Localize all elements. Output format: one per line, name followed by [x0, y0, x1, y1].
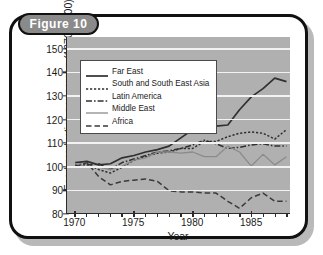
chart-stage: Food production per person (1970 = 100) …: [9, 14, 308, 239]
y-axis-tick-labels: 1501401301201101009080: [33, 37, 63, 214]
gridline: [67, 48, 290, 50]
figure-root: Figure 10 Food production per person (19…: [0, 0, 323, 255]
x-tick-mark: [275, 213, 276, 218]
x-tick-mark: [145, 213, 146, 218]
figure-badge-label: Figure 10: [30, 18, 88, 30]
gridline: [67, 190, 290, 192]
legend-item: Middle East: [86, 103, 212, 115]
legend-line-swatch: [86, 117, 108, 127]
y-tick-label: 100: [33, 161, 63, 172]
legend-item-label: Middle East: [112, 105, 155, 113]
legend-line-swatch: [86, 104, 108, 114]
legend-item: Africa: [86, 116, 212, 128]
legend-item: South and South East Asia: [86, 78, 212, 90]
legend-line-swatch: [86, 80, 108, 90]
x-tick-label: 1980: [181, 217, 203, 228]
legend-item-label: Latin America: [112, 93, 162, 101]
legend-line-swatch: [86, 67, 108, 77]
x-tick-label: 1970: [63, 217, 85, 228]
legend-item: Far East: [86, 66, 212, 78]
x-tick-mark: [98, 213, 99, 218]
x-tick-mark: [204, 213, 205, 218]
legend-item-label: Africa: [112, 118, 133, 126]
x-tick-mark: [86, 213, 87, 218]
legend-item-label: South and South East Asia: [112, 80, 209, 88]
y-tick-label: 80: [33, 209, 63, 220]
x-tick-mark: [110, 213, 111, 218]
x-tick-mark: [157, 213, 158, 218]
x-tick-mark: [169, 213, 170, 218]
x-tick-mark: [263, 213, 264, 218]
y-tick-label: 110: [33, 138, 63, 149]
figure-badge: Figure 10: [18, 13, 99, 35]
chart-legend: Far EastSouth and South East AsiaLatin A…: [80, 60, 217, 134]
legend-item: Latin America: [86, 91, 212, 103]
x-axis-title: Year: [66, 230, 290, 242]
x-tick-mark: [286, 213, 287, 218]
x-tick-label: 1985: [240, 217, 262, 228]
gridline: [67, 142, 290, 144]
y-tick-label: 120: [33, 114, 63, 125]
y-tick-label: 130: [33, 91, 63, 102]
x-tick-mark: [228, 213, 229, 218]
legend-item-label: Far East: [112, 68, 143, 76]
gridline: [67, 166, 290, 168]
x-tick-mark: [216, 213, 217, 218]
y-tick-label: 140: [33, 67, 63, 78]
x-tick-label: 1975: [122, 217, 144, 228]
y-tick-label: 90: [33, 185, 63, 196]
y-tick-label: 150: [33, 43, 63, 54]
legend-line-swatch: [86, 92, 108, 102]
